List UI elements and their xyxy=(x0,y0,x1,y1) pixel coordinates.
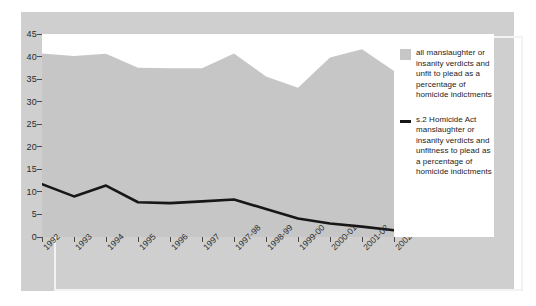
y-axis-tick-label: 10 xyxy=(27,187,37,197)
y-axis-tick-label: 30 xyxy=(27,97,37,107)
area-series-all-manslaughter xyxy=(42,49,394,237)
y-axis-tick-label: 45 xyxy=(27,29,37,39)
legend-label-area: all manslaughter or insanity verdicts an… xyxy=(416,48,492,101)
x-tick-mark xyxy=(202,237,203,242)
chart-plot-area: 454035302520151050 199219931994199519961… xyxy=(42,34,394,237)
chart-legend: all manslaughter or insanity verdicts an… xyxy=(394,34,494,237)
x-tick-mark xyxy=(394,237,395,242)
y-tick-mark xyxy=(37,101,42,102)
x-tick-mark xyxy=(170,237,171,242)
y-tick-mark xyxy=(37,124,42,125)
y-axis-tick-label: 25 xyxy=(27,119,37,129)
y-tick-mark xyxy=(37,191,42,192)
x-tick-mark xyxy=(298,237,299,242)
y-tick-mark xyxy=(37,34,42,35)
y-axis-tick-label: 35 xyxy=(27,74,37,84)
x-tick-mark xyxy=(330,237,331,242)
y-tick-mark xyxy=(37,146,42,147)
y-tick-mark xyxy=(37,169,42,170)
x-tick-mark xyxy=(266,237,267,242)
chart-screenshot: 454035302520151050 199219931994199519961… xyxy=(0,0,536,306)
legend-entry-area: all manslaughter or insanity verdicts an… xyxy=(400,48,492,101)
y-axis-tick-label: 20 xyxy=(27,142,37,152)
x-tick-mark xyxy=(362,237,363,242)
legend-label-line: s.2 Homicide Act manslaughter or insanit… xyxy=(416,115,492,178)
y-tick-mark xyxy=(37,56,42,57)
line-swatch-icon xyxy=(400,120,411,123)
y-tick-mark xyxy=(37,79,42,80)
area-swatch-icon xyxy=(400,49,411,60)
x-tick-mark xyxy=(234,237,235,242)
y-axis-tick-label: 15 xyxy=(27,164,37,174)
legend-entry-line: s.2 Homicide Act manslaughter or insanit… xyxy=(400,115,492,178)
x-tick-mark xyxy=(74,237,75,242)
y-axis-tick-label: 40 xyxy=(27,52,37,62)
x-tick-mark xyxy=(42,237,43,242)
y-tick-mark xyxy=(37,214,42,215)
x-tick-mark xyxy=(106,237,107,242)
chart-svg xyxy=(42,34,394,237)
x-tick-mark xyxy=(138,237,139,242)
chart-plot-wrapper: 454035302520151050 199219931994199519961… xyxy=(42,34,494,267)
